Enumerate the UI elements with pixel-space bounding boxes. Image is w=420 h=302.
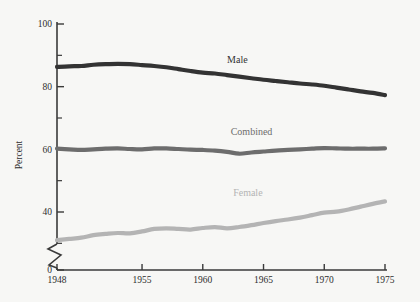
- x-tick-label: 1960: [193, 275, 212, 285]
- x-tick-label: 1948: [48, 275, 67, 285]
- y-tick-label: 80: [43, 82, 53, 92]
- y-tick-label: 40: [43, 207, 53, 217]
- employment-rate-line-chart: Percent 0406080100 194819551960196519701…: [0, 0, 420, 302]
- chart-container: Percent 0406080100 194819551960196519701…: [0, 0, 420, 302]
- x-tick-label: 1955: [133, 275, 152, 285]
- series-label-male: Male: [227, 54, 248, 65]
- y-tick-label: 100: [38, 19, 53, 29]
- x-tick-label: 1975: [376, 275, 395, 285]
- x-tick-label: 1970: [315, 275, 334, 285]
- series-label-combined: Combined: [231, 126, 273, 137]
- y-axis-title: Percent: [14, 140, 24, 169]
- x-tick-label: 1965: [254, 275, 273, 285]
- y-tick-label: 0: [47, 265, 52, 275]
- y-tick-label: 60: [43, 145, 53, 155]
- series-label-female: Female: [233, 187, 263, 198]
